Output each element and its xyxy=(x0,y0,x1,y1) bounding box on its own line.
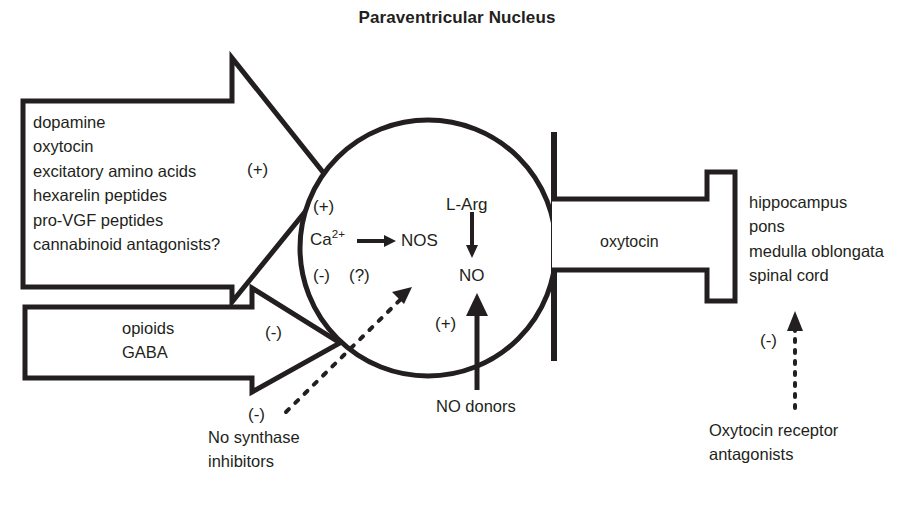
sign-no-donors: (+) xyxy=(435,313,456,335)
label-oxytocin-output: oxytocin xyxy=(600,232,659,252)
label-l-arginine: L-Arg xyxy=(446,194,488,216)
sign-inhibitory-inner: (-) xyxy=(313,265,330,287)
oxytocin-receptor-antagonist-arrow xyxy=(787,311,803,408)
label-nitric-oxide: NO xyxy=(459,265,485,287)
calcium-symbol: Ca xyxy=(310,230,332,249)
page-title: Paraventricular Nucleus xyxy=(0,7,914,29)
sign-excitatory-inner: (+) xyxy=(313,196,334,218)
inhibitory-input-arrow xyxy=(25,288,340,392)
label-nos-enzyme: NOS xyxy=(401,230,438,252)
label-calcium: Ca2+ xyxy=(310,229,345,251)
label-oxytocin-receptor-antagonists: Oxytocin receptor antagonists xyxy=(709,418,838,467)
label-no-donors: NO donors xyxy=(436,396,516,417)
sign-oxytocin-receptor-antagonists: (-) xyxy=(760,330,777,352)
calcium-charge: 2+ xyxy=(332,228,345,240)
sign-no-synthase-inhibitors: (-) xyxy=(248,404,265,426)
diagram-canvas: Paraventricular Nucleus dopamine oxytoci… xyxy=(0,0,914,508)
label-no-synthase-inhibitors: No synthase inhibitors xyxy=(208,425,300,474)
sign-inhibitory-outer: (-) xyxy=(265,322,282,344)
sign-excitatory-outer: (+) xyxy=(247,159,268,181)
projection-target-list: hippocampus pons medulla oblongata spina… xyxy=(749,190,884,288)
excitatory-input-list: dopamine oxytocin excitatory amino acids… xyxy=(33,110,220,256)
sign-unknown-inner: (?) xyxy=(349,265,370,287)
inhibitory-input-list: opioids GABA xyxy=(122,316,174,365)
